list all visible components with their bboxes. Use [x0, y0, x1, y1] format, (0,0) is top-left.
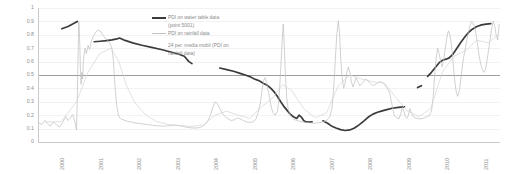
y-tick-label: 0 [31, 139, 34, 144]
x-tick-label: 2010 [445, 158, 450, 170]
y-tick-label: 0.6 [27, 59, 34, 64]
y-tick-label: 0.1 [27, 126, 34, 131]
x-tick-label: 2009 [407, 158, 412, 170]
y-tick-label: 0.7 [27, 46, 34, 51]
y-tick-label: 0.8 [27, 32, 34, 37]
legend-label-continuation: rainfall data) [168, 50, 195, 57]
legend-swatch [152, 17, 166, 19]
series-line-0 [220, 68, 312, 122]
series-line-0 [323, 107, 405, 131]
x-tick-label: 2005 [253, 158, 258, 170]
legend-entry: PDI on water table data [152, 14, 257, 21]
series-line-1 [39, 21, 499, 130]
x-tick-label: 2008 [368, 158, 373, 170]
data-series-layer [38, 8, 500, 142]
x-axis-tick-labels: 2000200120022003200420052006200720082009… [38, 144, 500, 174]
legend-entry: 24 per. media mobil (PDI on [152, 42, 257, 49]
series-line-0 [418, 86, 422, 88]
x-tick-label: 2003 [176, 158, 181, 170]
x-tick-label: 2006 [291, 158, 296, 170]
y-tick-label: 0.9 [27, 19, 34, 24]
legend-swatch [152, 33, 166, 34]
legend-label-continuation: (point 5001) [168, 22, 194, 29]
series-line-2 [46, 35, 498, 127]
y-tick-label: 1 [31, 5, 34, 10]
x-tick-label: 2004 [214, 158, 219, 170]
x-tick-label: 2007 [330, 158, 335, 170]
x-tick-label: 2011 [484, 158, 489, 170]
legend-label: PDI on rainfall data [168, 30, 210, 37]
y-tick-label: 0.4 [27, 86, 34, 91]
y-tick-label: 0.3 [27, 99, 34, 104]
legend-entry: PDI on rainfall data [152, 30, 257, 37]
series-line-0 [62, 21, 77, 28]
legend-label: 24 per. media mobil (PDI on [168, 42, 229, 49]
x-axis-line [38, 142, 500, 143]
x-tick-label: 2001 [99, 158, 104, 170]
chart-container: 10.90.80.70.60.50.40.30.20.10 2000200120… [0, 0, 513, 174]
x-tick-label: 2002 [137, 158, 142, 170]
plot-area [38, 8, 500, 142]
legend-entry-continuation: (point 5001) [152, 22, 257, 29]
legend-label: PDI on water table data [168, 14, 219, 21]
y-axis-tick-labels: 10.90.80.70.60.50.40.30.20.10 [0, 8, 36, 142]
y-tick-label: 0.2 [27, 113, 34, 118]
legend-entry-continuation: rainfall data) [152, 50, 257, 57]
chart-legend: PDI on water table data(point 5001)PDI o… [152, 14, 257, 58]
x-tick-label: 2000 [60, 158, 65, 170]
y-tick-label: 0.5 [27, 72, 34, 77]
